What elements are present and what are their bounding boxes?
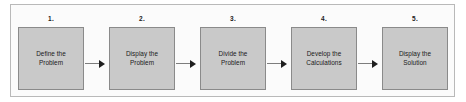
step-number-4: 4. bbox=[291, 15, 357, 23]
step-box-1[interactable]: Define the Problem bbox=[18, 27, 84, 90]
step-label-2-line1: Display the bbox=[126, 50, 158, 57]
step-label-2: Display the Problem bbox=[123, 50, 161, 66]
arrow-right-icon bbox=[372, 60, 378, 68]
step-box-5[interactable]: Display the Solution bbox=[382, 27, 448, 90]
step-box-2[interactable]: Display the Problem bbox=[109, 27, 175, 90]
connector-line bbox=[358, 63, 373, 64]
step-box-4[interactable]: Develop the Calculations bbox=[291, 27, 357, 90]
step-label-1-line1: Define the bbox=[36, 50, 66, 57]
step-label-5-line1: Display the bbox=[399, 50, 431, 57]
arrow-right-icon bbox=[99, 60, 105, 68]
step-label-1: Define the Problem bbox=[33, 50, 69, 66]
connector-1-to-2 bbox=[85, 59, 105, 68]
flowchart-step-4[interactable]: 4. Develop the Calculations bbox=[291, 15, 357, 94]
step-number-1: 1. bbox=[18, 15, 84, 23]
step-number-2: 2. bbox=[109, 15, 175, 23]
arrow-right-icon bbox=[190, 60, 196, 68]
connector-3-to-4 bbox=[267, 59, 287, 68]
connector-4-to-5 bbox=[358, 59, 378, 68]
step-label-4: Develop the Calculations bbox=[303, 50, 344, 66]
step-label-3: Divide the Problem bbox=[216, 50, 251, 66]
connector-line bbox=[267, 63, 282, 64]
step-number-5: 5. bbox=[382, 15, 448, 23]
flowchart-step-5[interactable]: 5. Display the Solution bbox=[382, 15, 448, 94]
connector-line bbox=[85, 63, 100, 64]
connector-2-to-3 bbox=[176, 59, 196, 68]
step-label-4-line1: Develop the bbox=[307, 50, 342, 57]
step-label-1-line2: Problem bbox=[39, 59, 63, 66]
step-label-2-line2: Problem bbox=[130, 59, 154, 66]
step-label-5: Display the Solution bbox=[396, 50, 434, 66]
flowchart-frame: 1. Define the Problem 2. Display the Pro… bbox=[10, 4, 455, 97]
step-label-5-line2: Solution bbox=[403, 59, 427, 66]
flowchart-step-2[interactable]: 2. Display the Problem bbox=[109, 15, 175, 94]
step-label-3-line1: Divide the bbox=[219, 50, 248, 57]
arrow-right-icon bbox=[281, 60, 287, 68]
flowchart-step-3[interactable]: 3. Divide the Problem bbox=[200, 15, 266, 94]
step-label-3-line2: Problem bbox=[221, 59, 245, 66]
step-label-4-line2: Calculations bbox=[306, 59, 341, 66]
step-number-3: 3. bbox=[200, 15, 266, 23]
connector-line bbox=[176, 63, 191, 64]
step-box-3[interactable]: Divide the Problem bbox=[200, 27, 266, 90]
flowchart-step-1[interactable]: 1. Define the Problem bbox=[18, 15, 84, 94]
